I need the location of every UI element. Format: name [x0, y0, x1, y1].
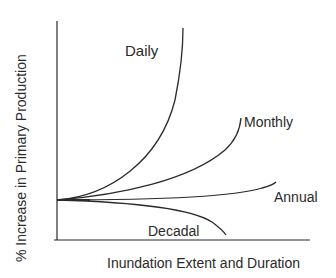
x-axis-title: Inundation Extent and Duration	[107, 255, 300, 271]
curve-annual	[57, 182, 276, 200]
y-axis-title: % Increase in Primary Production	[13, 54, 29, 262]
label-monthly: Monthly	[244, 114, 293, 130]
curve-monthly	[57, 118, 241, 200]
label-annual: Annual	[274, 189, 318, 205]
label-daily: Daily	[125, 42, 159, 59]
label-decadal: Decadal	[148, 223, 199, 239]
curve-decadal	[57, 200, 226, 235]
chart: Daily Monthly Annual Decadal Inundation …	[0, 0, 336, 278]
curve-daily	[57, 28, 183, 200]
